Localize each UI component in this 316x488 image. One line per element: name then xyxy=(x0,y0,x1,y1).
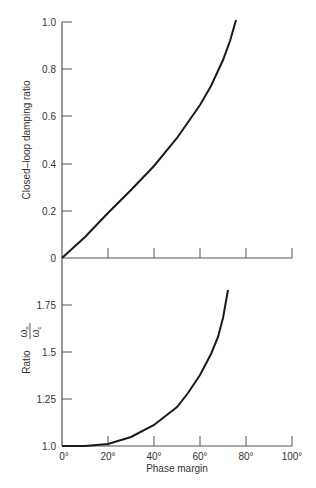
x-tick-label: 40° xyxy=(146,451,161,462)
bottom-y-tick-label: 1.25 xyxy=(37,394,57,405)
bottom-y-tick-label: 1.0 xyxy=(42,441,56,452)
frequency-ratio-curve xyxy=(62,290,228,446)
bottom-y-axis-label: Ratio ωn ωc xyxy=(18,323,42,374)
top-chart: 1.0 0.8 0.6 0.4 0.2 0 Closed–loop dampin… xyxy=(21,17,292,264)
damping-ratio-curve xyxy=(62,20,236,258)
figure: 1.0 0.8 0.6 0.4 0.2 0 Closed–loop dampin… xyxy=(0,0,316,488)
top-y-tick-label: 0.2 xyxy=(42,206,56,217)
top-y-tick-label: 0.8 xyxy=(42,64,56,75)
top-y-tick-label: 0.6 xyxy=(42,111,56,122)
x-tick-label: 100° xyxy=(282,451,303,462)
x-tick-label: 0° xyxy=(59,451,69,462)
ratio-numerator: ωn xyxy=(18,326,30,337)
ratio-denominator: ωc xyxy=(30,327,42,338)
ratio-word: Ratio xyxy=(21,350,32,374)
x-tick-label: 80° xyxy=(238,451,253,462)
bottom-y-tick-label: 1.75 xyxy=(37,300,57,311)
x-axis-label: Phase margin xyxy=(146,463,208,474)
bottom-y-tick-label: 1.5 xyxy=(42,347,56,358)
top-y-tick-label: 0.4 xyxy=(42,159,56,170)
top-y-axis-label: Closed–loop damping ratio xyxy=(21,80,32,199)
x-tick-label: 60° xyxy=(192,451,207,462)
bottom-chart: 1.75 1.5 1.25 1.0 0° 20° 40° 60° 80° 100… xyxy=(18,258,302,474)
top-y-tick-label: 1.0 xyxy=(42,17,56,28)
top-y-tick-label: 0 xyxy=(50,253,56,264)
x-tick-label: 20° xyxy=(100,451,115,462)
